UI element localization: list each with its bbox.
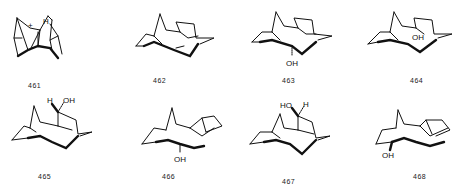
atom-h: H: [47, 96, 53, 105]
cropped-caption-remnant: [0, 0, 472, 4]
compound-461: + H 461: [0, 6, 118, 104]
compound-464: OH 464: [354, 6, 472, 104]
compound-465: H OH 465: [0, 100, 118, 196]
atom-oh: OH: [63, 96, 75, 105]
compound-label: 467: [282, 178, 295, 185]
atom-ho: HO: [280, 101, 292, 110]
atom-oh: OH: [286, 59, 298, 68]
structure-466-drawing: OH: [118, 100, 236, 196]
compound-467: HO H 467: [236, 100, 354, 196]
structure-463-drawing: OH: [236, 6, 354, 104]
compound-label: 465: [38, 173, 51, 180]
atom-oh: OH: [382, 151, 394, 160]
atom-oh: OH: [174, 155, 186, 164]
compound-label: 468: [413, 173, 426, 180]
atom-h: H: [43, 17, 49, 26]
compound-label: 462: [153, 77, 166, 84]
structure-468-drawing: OH: [354, 100, 472, 196]
compound-label: 463: [282, 77, 295, 84]
atom-oh: OH: [412, 33, 424, 42]
structure-462-drawing: [118, 6, 236, 104]
compound-label: 464: [410, 77, 423, 84]
structure-461-drawing: + H: [0, 6, 118, 104]
atom-h: H: [303, 100, 309, 109]
compound-label: 461: [28, 82, 41, 89]
compound-466: OH 466: [118, 100, 236, 196]
structure-465-drawing: H OH: [0, 100, 118, 196]
compound-468: OH 468: [354, 100, 472, 196]
compound-label: 466: [162, 173, 175, 180]
compound-463: OH 463: [236, 6, 354, 104]
structure-464-drawing: OH: [354, 6, 472, 104]
compound-462: 462: [118, 6, 236, 104]
atom-plus: +: [28, 21, 33, 30]
